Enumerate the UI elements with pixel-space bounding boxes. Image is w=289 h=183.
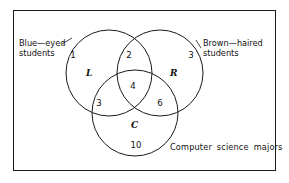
venn-diagram xyxy=(0,0,289,183)
region-count-l-only: 1 xyxy=(68,50,78,60)
region-count-l-and-r: 2 xyxy=(124,50,134,60)
label-computer-science-majors: Computer science majors xyxy=(170,142,282,152)
region-count-r-only: 3 xyxy=(186,50,196,60)
region-count-r-and-c: 6 xyxy=(155,98,165,108)
label-brown-haired-students: Brown—haired students xyxy=(203,38,263,58)
label-blue-eyed-students: Blue—eyed students xyxy=(19,38,65,58)
region-count-c-only: 10 xyxy=(128,140,144,150)
circle-set-L xyxy=(66,30,152,116)
region-count-l-and-r-and-c: 4 xyxy=(128,81,138,91)
figure-page: Blue—eyed students Brown—haired students… xyxy=(0,0,289,183)
set-label-L: L xyxy=(86,68,92,78)
set-label-C: C xyxy=(131,120,138,130)
leader-line-brown-haired xyxy=(196,40,201,48)
set-label-R: R xyxy=(170,68,177,78)
region-count-l-and-c: 3 xyxy=(94,98,104,108)
